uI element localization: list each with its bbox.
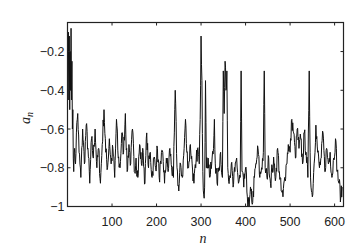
x-tick-label: 300: [191, 215, 212, 229]
y-tick-label: −0.2: [40, 45, 65, 59]
y-tick-label: −0.6: [40, 123, 65, 137]
data-series-line: [68, 28, 343, 206]
x-tick-label: 200: [146, 215, 167, 229]
y-tick-label: −0.4: [40, 84, 65, 98]
svg-text:an: an: [18, 112, 35, 124]
x-tick-label: 600: [324, 215, 345, 229]
x-tick-label: 500: [280, 215, 301, 229]
y-tick-label: −0.8: [40, 161, 65, 175]
line-chart: 100200300400500600 −0.2−0.4−0.6−0.8−1 n …: [0, 0, 362, 251]
y-tick-label: −1: [50, 200, 64, 214]
x-tick-label: 400: [235, 215, 256, 229]
series-a_n-line: [68, 28, 343, 206]
y-axis-label: an: [18, 112, 35, 124]
x-tick-label: 100: [102, 215, 123, 229]
x-axis-label: n: [200, 231, 207, 246]
